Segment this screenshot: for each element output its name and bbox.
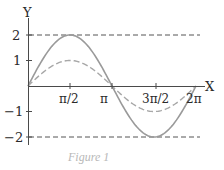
y-tick-label-m1: −1 [4,104,23,119]
y-tick-label-m2: −2 [4,130,23,145]
x-tick-label-2pi: 2π [186,92,202,106]
x-axis-label: X [205,79,215,94]
y-axis-label: Y [22,5,32,20]
x-tick-label-3pi2: 3π/2 [142,92,169,106]
x-tick-label-pi2: π/2 [59,92,79,106]
y-tick-label-1: 1 [13,53,21,68]
figure: Y X 2 1 −1 −2 π/2 π 3π/2 2π Figure 1 [0,0,224,170]
figure-caption: Figure 1 [67,150,109,164]
x-tick-label-pi: π [100,92,108,106]
y-tick-label-2: 2 [12,28,20,43]
